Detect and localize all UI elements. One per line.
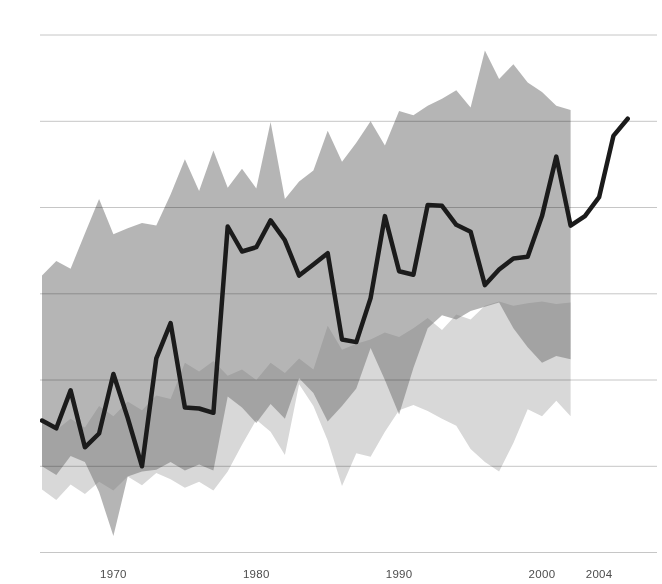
x-tick-label-2000: 2000: [529, 568, 556, 580]
x-tick-label-1970: 1970: [100, 568, 127, 580]
x-axis-labels: 19701980199020002004: [100, 568, 613, 580]
chart-canvas: 0.40.30.20.10.0−0.1−0.2 1970198019902000…: [40, 16, 662, 584]
x-tick-label-2004: 2004: [586, 568, 613, 580]
chart-figure: 0.40.30.20.10.0−0.1−0.2 1970198019902000…: [40, 16, 662, 584]
x-tick-label-1980: 1980: [243, 568, 270, 580]
x-tick-label-1990: 1990: [386, 568, 413, 580]
